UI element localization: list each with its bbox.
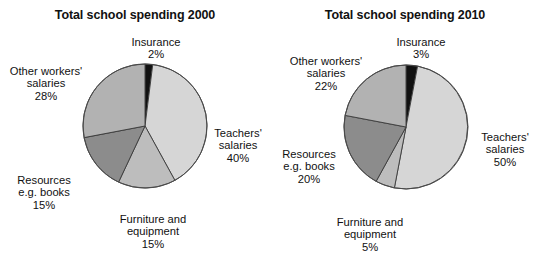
slice-label-line: Other workers' (280, 55, 372, 67)
slice-label-line: Furniture and (320, 216, 420, 228)
slice-label-line: salaries (206, 139, 270, 151)
chart-panel-2010: Total school spending 2010 Insurance 3% … (270, 0, 540, 272)
slice-label-line: equipment (320, 228, 420, 240)
slice-label-other-workers-salaries-2010: Other workers' salaries 22% (280, 55, 372, 92)
slice-value-line: 15% (103, 238, 203, 250)
slice-label-line: salaries (472, 143, 538, 155)
slice-label-line: salaries (0, 77, 92, 89)
slice-label-line: Resources (267, 148, 351, 160)
slice-value-line: 22% (280, 80, 372, 92)
slice-label-teachers-salaries-2010: Teachers' salaries 50% (472, 131, 538, 168)
slice-label-line: Teachers' (206, 127, 270, 139)
slice-value-line: 3% (366, 48, 476, 60)
slice-label-line: Resources (2, 174, 86, 186)
slice-label-insurance-2010: Insurance 3% (366, 36, 476, 61)
slice-label-line: salaries (280, 67, 372, 79)
slice-value-line: 50% (472, 156, 538, 168)
slice-label-line: Other workers' (0, 65, 92, 77)
slice-label-line: e.g. books (267, 160, 351, 172)
slice-value-line: 15% (2, 199, 86, 211)
pie-chart-figure: Total school spending 2000 Insurance 2% … (0, 0, 540, 272)
slice-label-furniture-equipment-2000: Furniture and equipment 15% (103, 213, 203, 250)
slice-label-line: e.g. books (2, 186, 86, 198)
slice-label-other-workers-salaries-2000: Other workers' salaries 28% (0, 65, 92, 102)
slice-label-furniture-equipment-2010: Furniture and equipment 5% (320, 216, 420, 253)
chart-panel-2000: Total school spending 2000 Insurance 2% … (0, 0, 270, 272)
slice-value-line: 5% (320, 241, 420, 253)
slice-value-line: 2% (101, 48, 211, 60)
slice-label-line: Insurance (101, 36, 211, 48)
slice-label-line: equipment (103, 225, 203, 237)
slice-label-teachers-salaries-2000: Teachers' salaries 40% (206, 127, 270, 164)
slice-value-line: 28% (0, 90, 92, 102)
slice-label-resources-books-2010: Resources e.g. books 20% (267, 148, 351, 185)
slice-label-line: Teachers' (472, 131, 538, 143)
slice-label-line: Insurance (366, 36, 476, 48)
pie-slice-other-workers-salaries (83, 64, 145, 138)
slice-value-line: 40% (206, 152, 270, 164)
slice-label-line: Furniture and (103, 213, 203, 225)
slice-value-line: 20% (267, 173, 351, 185)
slice-label-insurance-2000: Insurance 2% (101, 36, 211, 61)
slice-label-resources-books-2000: Resources e.g. books 15% (2, 174, 86, 211)
